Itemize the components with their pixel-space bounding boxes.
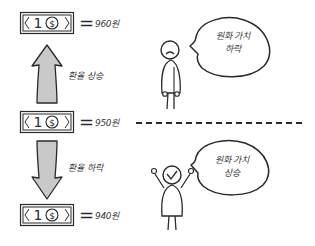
svg-text:$: $ — [49, 118, 55, 128]
dollar-bill-icon: $ 1 — [20, 111, 74, 133]
speech-line: 하락 — [204, 43, 262, 56]
dollar-bill-middle: $ 1 — [20, 111, 74, 133]
arrow-label-up: 환율 상승 — [68, 71, 103, 81]
dollar-bill-bottom: $ 1 — [20, 204, 74, 226]
svg-text:1: 1 — [34, 207, 43, 223]
dollar-bill-icon: $ 1 — [20, 12, 74, 34]
speech-line: 원화 가치 — [203, 154, 261, 167]
equals-sign: = — [79, 14, 94, 32]
arrow-down-icon — [30, 140, 64, 200]
svg-text:1: 1 — [34, 15, 43, 31]
arrow-up-icon — [30, 44, 64, 104]
speech-line: 원화 가치 — [204, 30, 262, 43]
dollar-bill-icon: $ 1 — [20, 204, 74, 226]
equals-sign: = — [79, 206, 94, 224]
svg-text:$: $ — [49, 19, 55, 29]
equals-sign: = — [79, 113, 94, 131]
svg-text:$: $ — [49, 211, 55, 221]
rate-value-middle: 950원 — [95, 118, 119, 128]
svg-text:1: 1 — [34, 114, 43, 130]
speech-text-bottom: 원화 가치 상승 — [203, 154, 261, 180]
rate-value-top: 960원 — [95, 19, 119, 29]
dashed-divider — [136, 122, 302, 124]
speech-line: 상승 — [203, 167, 261, 180]
speech-text-top: 원화 가치 하락 — [204, 30, 262, 56]
arrow-label-down: 환율 하락 — [68, 163, 103, 173]
rate-value-bottom: 940원 — [95, 211, 119, 221]
dollar-bill-top: $ 1 — [20, 12, 74, 34]
